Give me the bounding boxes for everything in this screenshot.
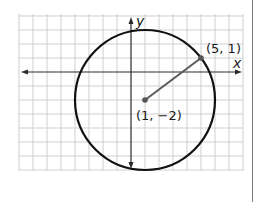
point-on-circle	[198, 55, 204, 61]
coordinate-plane: y x (5, 1) (1, −2)	[0, 0, 260, 202]
x-axis-label: x	[232, 55, 242, 71]
x-axis-left-arrow-icon	[21, 70, 28, 75]
center-point-label: (1, −2)	[136, 108, 182, 123]
y-axis-label: y	[135, 13, 145, 29]
center-point	[142, 97, 148, 103]
axes	[21, 17, 242, 169]
y-axis-up-arrow-icon	[129, 17, 134, 24]
point-on-circle-label: (5, 1)	[206, 41, 241, 56]
